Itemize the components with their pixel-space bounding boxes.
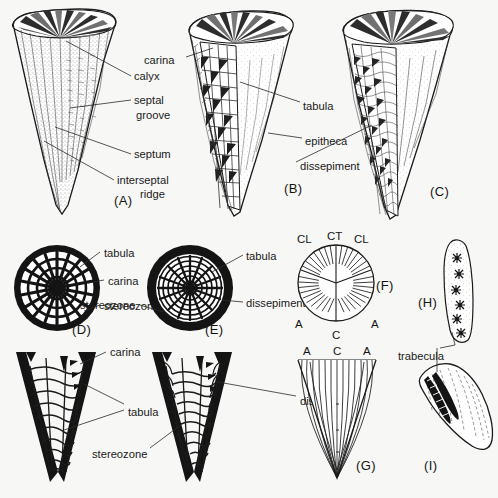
label-stereozone-bm: stereozone — [92, 448, 147, 460]
panel-d-axial-boss — [53, 284, 61, 292]
label-septal-groove-line1: septal — [134, 94, 164, 106]
panel-f-label-ct: CT — [327, 230, 342, 242]
figure-canvas: (A) carina calyx septal groove septum in… — [0, 0, 498, 498]
panel-g-label-c: C — [333, 345, 341, 357]
panel-d-caption: (D) — [72, 322, 91, 337]
panel-a-caption: (A) — [114, 193, 133, 208]
panel-h-caption: (H) — [418, 295, 437, 310]
label-epitheca: epitheca — [305, 135, 348, 147]
label-dissepiment-c: dissepiment — [300, 160, 361, 172]
label-tabula-bl: tabula — [128, 406, 159, 418]
panel-f-label-cl-left: CL — [297, 233, 312, 245]
label-tabula-b: tabula — [303, 100, 334, 112]
label-septal-groove-line2: groove — [136, 109, 170, 121]
panel-g-caption: (G) — [356, 458, 376, 473]
panel-f-label-c: C — [332, 329, 340, 341]
panel-e-caption: (E) — [205, 322, 224, 337]
panel-b-caption: (B) — [284, 181, 303, 196]
label-calyx: calyx — [134, 70, 160, 82]
panel-g-label-a-right: A — [363, 345, 371, 357]
panel-g-label-a-left: A — [303, 345, 311, 357]
panel-f-label-a-left: A — [295, 318, 303, 330]
label-carina-bl: carina — [110, 346, 141, 358]
panel-c-caption: (C) — [430, 184, 449, 199]
label-carina-b: carina — [144, 54, 175, 66]
label-interseptal-line1: interseptal — [117, 174, 169, 186]
label-carina-d: carina — [108, 275, 139, 287]
panel-f-caption: (F) — [376, 278, 394, 293]
label-interseptal-line2: ridge — [140, 188, 165, 200]
label-stereozone-e: stereozone — [80, 299, 135, 311]
label-septum: septum — [134, 148, 171, 160]
panel-i-caption: (I) — [424, 458, 437, 473]
label-trabecula: trabecula — [398, 350, 445, 362]
label-dissepiment-e: dissepiment — [246, 297, 307, 309]
panel-f-label-cl-right: CL — [354, 233, 369, 245]
label-tabula-e: tabula — [246, 250, 277, 262]
coral-morphology-figure: (A) carina calyx septal groove septum in… — [0, 0, 498, 498]
panel-f-label-a-right: A — [371, 318, 379, 330]
label-tabula-d: tabula — [104, 247, 135, 259]
panel-e-axial-boss — [187, 285, 193, 291]
